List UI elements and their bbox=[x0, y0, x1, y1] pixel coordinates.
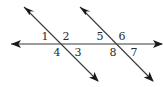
angle-label-3: 3 bbox=[75, 46, 82, 59]
angle-label-4: 4 bbox=[54, 46, 61, 59]
arrow-up-left-icon bbox=[24, 7, 35, 15]
angle-label-1: 1 bbox=[42, 30, 49, 43]
angle-label-7: 7 bbox=[131, 46, 138, 59]
angle-label-5: 5 bbox=[97, 30, 104, 43]
parallel-lines-transversal-diagram: 12345678 bbox=[0, 0, 164, 87]
angle-label-6: 6 bbox=[119, 30, 126, 43]
angle-label-8: 8 bbox=[110, 46, 117, 59]
arrow-up-right-icon bbox=[80, 7, 91, 15]
angle-label-2: 2 bbox=[63, 30, 70, 43]
